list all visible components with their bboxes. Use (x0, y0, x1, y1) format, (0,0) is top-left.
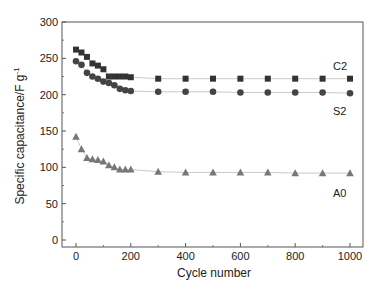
square-marker (292, 76, 298, 82)
square-marker (78, 50, 84, 56)
square-marker (89, 60, 95, 66)
square-marker (106, 74, 112, 80)
triangle-marker (209, 168, 217, 175)
series-label-s2: S2 (333, 105, 346, 117)
circle-marker (128, 88, 135, 95)
series-c2 (73, 47, 353, 82)
x-tick-label: 600 (231, 250, 249, 262)
circle-marker (292, 89, 299, 96)
circle-marker (237, 89, 244, 96)
circle-marker (182, 88, 189, 95)
square-marker (111, 74, 117, 80)
square-marker (183, 76, 189, 82)
x-tick-label: 0 (73, 250, 79, 262)
circle-marker (319, 89, 326, 96)
capacitance-chart: 050100150200250300 02004006008001000 Cyc… (0, 0, 381, 295)
series-a0 (72, 133, 354, 176)
series-label-a0: A0 (333, 187, 346, 199)
circle-marker (210, 88, 217, 95)
circle-marker (78, 62, 85, 69)
circle-marker (347, 90, 354, 97)
square-marker (210, 76, 216, 82)
x-tick-label: 200 (122, 250, 140, 262)
x-axis-ticks: 02004006008001000 (73, 243, 362, 262)
circle-marker (155, 88, 162, 95)
triangle-marker (319, 169, 327, 176)
square-marker (155, 76, 161, 82)
triangle-marker (72, 133, 80, 140)
square-marker (128, 74, 134, 80)
square-marker (265, 76, 271, 82)
triangle-marker (264, 168, 272, 175)
y-tick-label: 50 (46, 198, 58, 210)
circle-marker (111, 82, 118, 89)
circle-marker (84, 70, 91, 77)
square-marker (100, 66, 106, 72)
square-marker (347, 76, 353, 82)
circle-marker (73, 58, 80, 65)
data-series (72, 47, 354, 177)
x-tick-label: 800 (286, 250, 304, 262)
x-axis-title: Cycle number (177, 266, 251, 280)
y-axis-title: Specific capacitance/F g-1 (12, 67, 27, 205)
y-tick-label: 200 (40, 89, 58, 101)
square-marker (320, 76, 326, 82)
y-tick-label: 0 (52, 234, 58, 246)
square-marker (237, 76, 243, 82)
series-label-c2: C2 (333, 60, 347, 72)
y-tick-label: 300 (40, 16, 58, 28)
square-marker (95, 63, 101, 69)
square-marker (122, 74, 128, 80)
triangle-marker (83, 154, 91, 161)
triangle-marker (78, 145, 86, 152)
y-axis-title-text: Specific capacitance/F g (13, 75, 27, 205)
y-tick-label: 150 (40, 125, 58, 137)
circle-marker (265, 89, 272, 96)
x-tick-label: 400 (176, 250, 194, 262)
square-marker (117, 74, 123, 80)
y-tick-label: 100 (40, 161, 58, 173)
plot-border (62, 22, 363, 247)
series-line (76, 137, 350, 173)
x-tick-label: 1000 (338, 250, 362, 262)
triangle-marker (182, 168, 190, 175)
triangle-marker (105, 161, 113, 168)
y-axis-title-superscript: -1 (12, 67, 21, 75)
square-marker (73, 47, 79, 53)
triangle-marker (237, 168, 245, 175)
triangle-marker (346, 169, 354, 176)
plot-frame (62, 22, 363, 247)
y-tick-label: 250 (40, 52, 58, 64)
square-marker (84, 54, 90, 60)
triangle-marker (127, 166, 135, 173)
